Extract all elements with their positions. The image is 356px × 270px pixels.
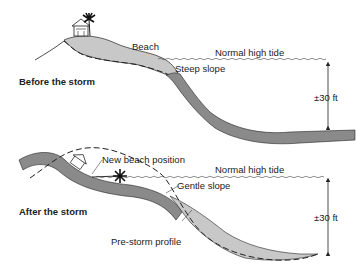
steep-slope-label: Steep slope [175,63,225,74]
after-panel: New beach position Normal high tide Gent… [19,148,338,261]
gentle-slope-label: Gentle slope [177,180,230,191]
after-storm-title: After the storm [19,206,87,217]
tide-line-after [96,176,324,178]
depth-label-after: ±30 ft [314,212,338,223]
beach-sand-light [64,36,178,76]
before-panel: Beach Normal high tide Steep slope ±30 f… [19,13,355,144]
beach-label: Beach [132,41,159,52]
tide-label-after: Normal high tide [215,164,284,175]
storm-beach-diagram: Beach Normal high tide Steep slope ±30 f… [0,0,356,270]
steep-slope-sand [166,73,355,144]
hill-outline [35,41,64,60]
new-beach-leader [92,160,102,174]
tide-label-before: Normal high tide [215,47,284,58]
house-icon [72,19,90,36]
tide-line-before [158,58,326,60]
new-beach-label: New beach position [102,154,185,165]
depth-label-before: ±30 ft [314,92,338,103]
pre-storm-label: Pre-storm profile [111,236,181,247]
new-sand-deposit [170,196,318,260]
before-storm-title: Before the storm [19,76,95,87]
